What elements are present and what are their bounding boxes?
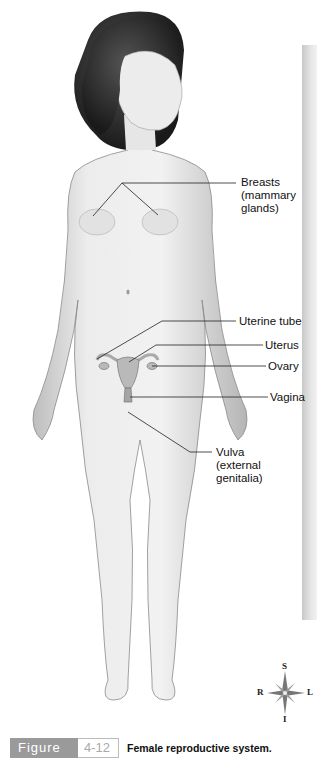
- label-vagina: Vagina: [270, 391, 305, 404]
- compass-superior: S: [282, 661, 287, 671]
- label-uterine-tube: Uterine tube: [239, 315, 302, 328]
- anatomy-figure: Breasts (mammary glands) Uterine tube Ut…: [0, 0, 317, 730]
- label-breasts: Breasts (mammary glands): [241, 176, 296, 215]
- orientation-compass: S I R L: [255, 663, 315, 723]
- figure-title: Female reproductive system.: [127, 742, 272, 754]
- compass-right: R: [257, 687, 264, 697]
- compass-inferior: I: [283, 714, 287, 724]
- figure-number: 4-12: [78, 738, 119, 758]
- label-ovary: Ovary: [268, 360, 299, 373]
- label-vulva: Vulva (external genitalia): [216, 446, 263, 485]
- label-uterus: Uterus: [265, 339, 299, 352]
- compass-left: L: [307, 687, 313, 697]
- figure-word: Figure: [10, 738, 78, 758]
- figure-caption: Figure 4-12 Female reproductive system.: [10, 738, 272, 758]
